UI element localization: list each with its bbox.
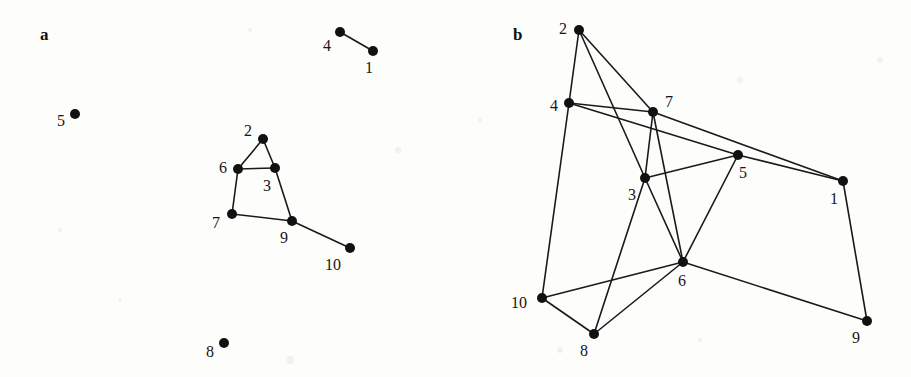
- graph-edge-1-9: [843, 181, 867, 321]
- node-label-10: 10: [511, 295, 527, 311]
- graph-edge-9-10: [292, 221, 350, 248]
- paper-speck: [478, 118, 482, 122]
- graph-node-4[interactable]: [335, 27, 345, 37]
- graph-node-4[interactable]: [564, 98, 574, 108]
- graph-node-7[interactable]: [648, 107, 658, 117]
- node-label-8: 8: [580, 343, 588, 359]
- graph-node-9[interactable]: [287, 216, 297, 226]
- node-group: [537, 25, 872, 339]
- graph-edge-7-9: [232, 214, 292, 221]
- node-label-9: 9: [280, 230, 288, 246]
- graph-edge-5-1: [738, 155, 843, 181]
- graph-edge-3-6: [645, 178, 683, 262]
- paper-speck: [58, 228, 62, 232]
- graph-node-6[interactable]: [233, 164, 243, 174]
- graph-edge-3-9: [275, 168, 292, 221]
- paper-speck: [286, 356, 294, 364]
- node-label-2: 2: [559, 21, 567, 37]
- panel-b-letter: b: [513, 26, 522, 43]
- graph-edge-7-6: [653, 112, 683, 262]
- graph-edge-6-7: [232, 169, 238, 214]
- panel-a-letter: a: [40, 26, 49, 43]
- graph-node-8[interactable]: [589, 329, 599, 339]
- graph-node-3[interactable]: [640, 173, 650, 183]
- edge-group: [542, 30, 867, 334]
- panel-a-graph: [0, 0, 455, 377]
- graph-node-1[interactable]: [368, 46, 378, 56]
- paper-speck: [248, 28, 252, 32]
- graph-node-2[interactable]: [258, 134, 268, 144]
- graph-edge-6-9: [683, 262, 867, 321]
- graph-node-10[interactable]: [537, 293, 547, 303]
- graph-edge-7-3: [645, 112, 653, 178]
- graph-node-5[interactable]: [733, 150, 743, 160]
- graph-node-10[interactable]: [345, 243, 355, 253]
- graph-node-8[interactable]: [219, 338, 229, 348]
- node-label-7: 7: [665, 94, 673, 110]
- graph-node-5[interactable]: [70, 109, 80, 119]
- paper-speck: [698, 338, 702, 342]
- graph-edge-2-4: [569, 30, 579, 103]
- node-label-5: 5: [739, 165, 747, 181]
- paper-speck: [737, 77, 743, 83]
- paper-speck: [395, 147, 401, 153]
- node-label-1: 1: [365, 60, 373, 76]
- graph-node-9[interactable]: [862, 316, 872, 326]
- graph-edge-3-8: [594, 178, 645, 334]
- node-label-3: 3: [628, 187, 636, 203]
- panel-b-graph: [455, 0, 911, 377]
- graph-edge-4-1: [340, 32, 373, 51]
- node-label-10: 10: [325, 257, 341, 273]
- node-label-4: 4: [550, 98, 558, 114]
- node-label-8: 8: [206, 344, 214, 360]
- figure-canvas: a 12345678910 b 12345678910: [0, 0, 911, 377]
- node-label-2: 2: [244, 123, 252, 139]
- node-label-7: 7: [212, 215, 220, 231]
- node-label-9: 9: [852, 330, 860, 346]
- graph-edge-2-3: [579, 30, 645, 178]
- node-label-5: 5: [57, 113, 65, 129]
- edge-group: [232, 32, 373, 248]
- graph-edge-10-8: [542, 298, 594, 334]
- graph-node-6[interactable]: [678, 257, 688, 267]
- graph-node-2[interactable]: [574, 25, 584, 35]
- graph-edge-4-10: [542, 103, 569, 298]
- panel-a: a 12345678910: [0, 0, 455, 377]
- node-label-6: 6: [678, 273, 686, 289]
- paper-speck: [118, 298, 122, 302]
- node-label-6: 6: [219, 160, 227, 176]
- node-label-1: 1: [830, 191, 838, 207]
- panel-b: b 12345678910: [455, 0, 911, 377]
- paper-speck: [557, 347, 563, 353]
- node-label-3: 3: [263, 178, 271, 194]
- graph-node-3[interactable]: [270, 163, 280, 173]
- node-label-4: 4: [323, 38, 331, 54]
- graph-node-7[interactable]: [227, 209, 237, 219]
- graph-edge-5-6: [683, 155, 738, 262]
- graph-node-1[interactable]: [838, 176, 848, 186]
- graph-edge-2-6: [238, 139, 263, 169]
- graph-edge-3-5: [645, 155, 738, 178]
- graph-edge-6-3: [238, 168, 275, 169]
- graph-edge-2-7: [579, 30, 653, 112]
- node-group: [70, 27, 378, 348]
- paper-speck: [877, 57, 883, 63]
- graph-edge-7-1: [653, 112, 843, 181]
